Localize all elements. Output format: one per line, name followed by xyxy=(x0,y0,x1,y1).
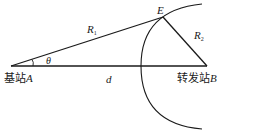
geometry-diagram: E R1 R2 θ d 基站A 转发站B xyxy=(0,0,258,135)
label-relay-station-B: 转发站B xyxy=(177,71,217,85)
label-R2: R2 xyxy=(193,29,204,42)
label-theta: θ xyxy=(46,55,51,66)
angle-mark-theta xyxy=(32,60,33,67)
label-point-E: E xyxy=(156,4,164,16)
label-base-station-A: 基站A xyxy=(4,71,33,85)
label-R1: R1 xyxy=(86,23,97,36)
label-d: d xyxy=(106,73,112,85)
